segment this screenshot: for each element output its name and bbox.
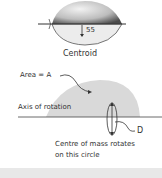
measurement-label: 55	[86, 27, 95, 34]
area-label: Area = A	[20, 72, 51, 79]
axis-label: Axis of rotation	[18, 104, 71, 111]
bottom-band	[0, 168, 162, 178]
distance-label: D	[137, 127, 143, 135]
centroid-caption: Centroid	[63, 50, 97, 58]
distance-pointer	[115, 122, 135, 132]
caption-line-2: on this circle	[55, 152, 100, 159]
centroid-solid-shape	[38, 1, 126, 45]
caption-line-1: Centre of mass rotates	[55, 141, 135, 148]
